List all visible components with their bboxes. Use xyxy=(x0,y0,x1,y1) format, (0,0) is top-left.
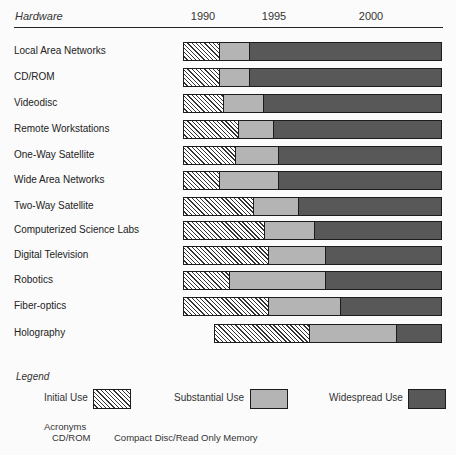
legend-swatch-initial xyxy=(93,389,131,409)
segment-substantial-use xyxy=(310,325,397,342)
segment-substantial-use xyxy=(269,298,341,315)
row-label: Computerized Science Labs xyxy=(14,224,139,235)
legend-label-initial: Initial Use xyxy=(44,392,88,403)
segment-substantial-use xyxy=(239,121,274,138)
segment-widespread-use xyxy=(279,147,441,164)
segment-substantial-use xyxy=(254,198,299,215)
acronyms-title: Acronyms xyxy=(44,421,86,432)
row-label: Two-Way Satellite xyxy=(14,200,94,211)
row-label: Wide Area Networks xyxy=(14,174,105,185)
segment-initial-use xyxy=(184,172,220,189)
segment-widespread-use xyxy=(250,69,441,86)
row-label: One-Way Satellite xyxy=(14,149,94,160)
row-label: Robotics xyxy=(14,274,53,285)
segment-widespread-use xyxy=(315,222,441,239)
segment-initial-use xyxy=(184,95,224,112)
timeline-bar xyxy=(183,146,442,165)
segment-initial-use xyxy=(184,69,220,86)
segment-widespread-use xyxy=(250,43,441,60)
acronym-full: Compact Disc/Read Only Memory xyxy=(114,432,258,443)
timeline-bar xyxy=(183,68,442,87)
acronym-abbr: CD/ROM xyxy=(52,432,91,443)
segment-substantial-use xyxy=(220,172,279,189)
segment-substantial-use xyxy=(224,95,264,112)
segment-initial-use xyxy=(184,247,269,264)
timeline-bar xyxy=(214,324,442,343)
legend-label-widespread: Widespread Use xyxy=(329,392,403,403)
segment-substantial-use xyxy=(269,247,326,264)
segment-initial-use xyxy=(184,222,265,239)
row-label: CD/ROM xyxy=(14,71,55,82)
legend-swatch-widespread xyxy=(408,389,446,409)
row-label: Digital Television xyxy=(14,249,88,260)
row-label: Fiber-optics xyxy=(14,300,66,311)
legend-label-substantial: Substantial Use xyxy=(174,392,244,403)
timeline-bar xyxy=(183,42,442,61)
segment-widespread-use xyxy=(299,198,441,215)
timeline-bar xyxy=(183,197,442,216)
segment-initial-use xyxy=(184,272,230,289)
column-header-hardware: Hardware xyxy=(15,10,63,22)
segment-substantial-use xyxy=(236,147,279,164)
segment-widespread-use xyxy=(274,121,441,138)
timeline-bar xyxy=(183,171,442,190)
row-label: Local Area Networks xyxy=(14,45,106,56)
header-rule xyxy=(14,27,443,28)
timeline-bar xyxy=(183,94,442,113)
segment-widespread-use xyxy=(264,95,441,112)
segment-initial-use xyxy=(215,325,310,342)
tick-2000: 2000 xyxy=(359,10,383,22)
tick-1990: 1990 xyxy=(191,10,215,22)
segment-substantial-use xyxy=(230,272,326,289)
timeline-bar xyxy=(183,221,442,240)
legend-title: Legend xyxy=(16,371,49,382)
segment-initial-use xyxy=(184,298,269,315)
row-label: Remote Workstations xyxy=(14,123,109,134)
segment-substantial-use xyxy=(220,43,250,60)
row-label: Videodisc xyxy=(14,97,57,108)
segment-initial-use xyxy=(184,198,254,215)
segment-widespread-use xyxy=(279,172,441,189)
segment-widespread-use xyxy=(397,325,441,342)
legend-swatch-substantial xyxy=(250,389,288,409)
timeline-bar xyxy=(183,297,442,316)
segment-initial-use xyxy=(184,43,220,60)
timeline-bar xyxy=(183,120,442,139)
segment-widespread-use xyxy=(326,247,441,264)
row-label: Holography xyxy=(14,327,65,338)
segment-widespread-use xyxy=(326,272,441,289)
timeline-bar xyxy=(183,271,442,290)
segment-initial-use xyxy=(184,147,236,164)
timeline-bar xyxy=(183,246,442,265)
tick-1995: 1995 xyxy=(262,10,286,22)
segment-initial-use xyxy=(184,121,239,138)
segment-substantial-use xyxy=(265,222,315,239)
segment-substantial-use xyxy=(220,69,250,86)
segment-widespread-use xyxy=(341,298,441,315)
